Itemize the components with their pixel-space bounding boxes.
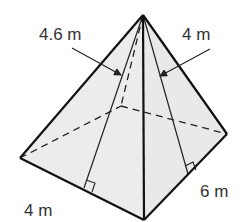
label-base-front-right: 6 m [200, 182, 228, 201]
pyramid-diagram: 4.6 m 4 m 4 m 6 m [0, 0, 242, 222]
label-slant-right: 4 m [182, 25, 210, 44]
label-base-front-left: 4 m [24, 201, 52, 220]
pyramid-figure: 4.6 m 4 m 4 m 6 m [0, 0, 242, 222]
label-slant-left: 4.6 m [39, 25, 82, 44]
